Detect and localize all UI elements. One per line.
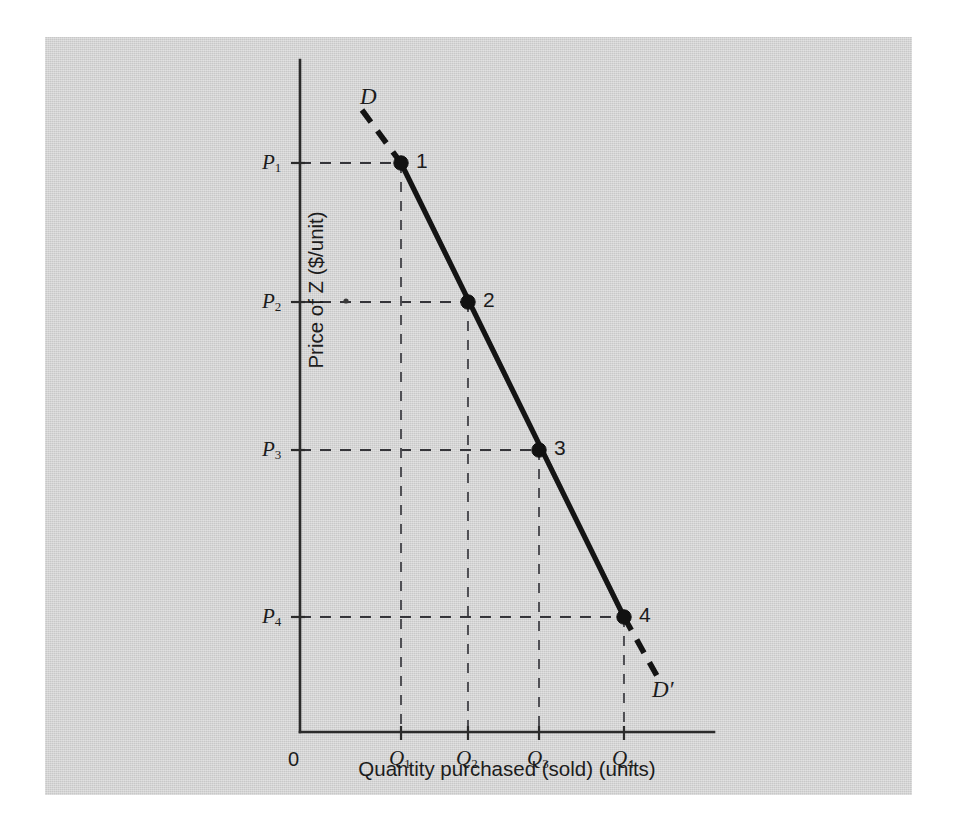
- demand-curve-segment: [401, 163, 624, 617]
- demand-curve-label-lower: D′: [652, 678, 674, 701]
- data-point-2: [461, 295, 475, 309]
- data-point-label-3: 3: [554, 437, 566, 458]
- x-axis-title: Quantity purchased (sold) (units): [300, 757, 714, 781]
- origin-label: 0: [288, 749, 299, 769]
- data-point-label-1: 1: [416, 150, 428, 171]
- y-tick-label-p1: P1: [262, 152, 281, 174]
- demand-curve-upper-extension: [362, 110, 401, 163]
- data-point-label-2: 2: [483, 289, 495, 310]
- data-point-4: [617, 610, 631, 624]
- data-point-label-4: 4: [639, 604, 651, 625]
- y-tick-label-p4: P4: [262, 606, 281, 628]
- y-tick-label-p2: P2: [262, 291, 281, 313]
- demand-curve-label-upper: D: [360, 85, 377, 108]
- demand-curve-plot: [0, 0, 961, 833]
- y-axis-title: Price of Z ($/unit): [304, 170, 328, 410]
- scan-artifact-dot: [343, 298, 348, 303]
- data-point-3: [532, 443, 546, 457]
- figure-root: P1 P2 P3 P4 Q1 Q2 Q3 Q4 0 D D′ 1 2 3 4 Q…: [0, 0, 961, 833]
- y-tick-label-p3: P3: [262, 439, 281, 461]
- data-point-1: [394, 156, 408, 170]
